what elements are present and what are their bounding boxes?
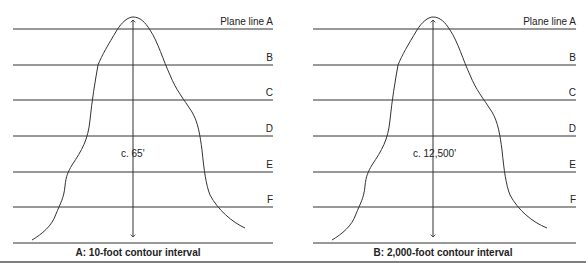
plane-labels: Plane line A B C D E F (220, 16, 273, 205)
panel-a: c. 65' Plane line A B C D E F A: 10-foot… (13, 16, 273, 258)
plane-label-b: B (569, 52, 576, 63)
plane-lines (13, 29, 273, 243)
panel-caption: A: 10-foot contour interval (75, 247, 200, 258)
plane-label-b: B (266, 52, 273, 63)
plane-label-f: F (267, 194, 273, 205)
plane-label-e: E (569, 159, 576, 170)
panel-b: c. 12,500' Plane line A B C D E F B: 2,0… (313, 16, 576, 258)
plane-label-a: Plane line A (220, 16, 273, 27)
plane-label-f: F (570, 194, 576, 205)
plane-label-d: D (569, 123, 576, 134)
plane-label-c: C (266, 87, 273, 98)
contour-diagram: c. 65' Plane line A B C D E F A: 10-foot… (0, 0, 586, 269)
plane-label-d: D (266, 123, 273, 134)
plane-label-c: C (569, 87, 576, 98)
plane-label-e: E (266, 159, 273, 170)
height-label: c. 65' (121, 148, 145, 159)
height-label: c. 12,500' (413, 148, 456, 159)
plane-labels: Plane line A B C D E F (523, 16, 576, 205)
panel-caption: B: 2,000-foot contour interval (374, 247, 513, 258)
plane-label-a: Plane line A (523, 16, 576, 27)
plane-lines (313, 29, 576, 243)
